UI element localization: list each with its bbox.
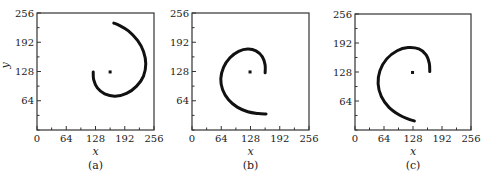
y-tick-label: 128 — [333, 67, 352, 78]
x-tick-label: 128 — [86, 133, 105, 144]
y-tick-label: 256 — [170, 8, 189, 19]
x-tick-label: 256 — [299, 133, 318, 144]
x-tick-label: 256 — [461, 133, 480, 144]
y-tick-label: 128 — [15, 66, 34, 77]
y-tick-label: 256 — [15, 8, 34, 19]
spiral-curve — [378, 47, 430, 120]
center-point — [109, 70, 112, 73]
x-tick-label: 0 — [34, 133, 40, 144]
x-tick-label: 192 — [270, 133, 289, 144]
y-axis-label: y — [0, 62, 12, 70]
x-axis-label: x — [247, 145, 254, 158]
panel-label: (c) — [406, 159, 421, 172]
x-tick-label: 64 — [215, 133, 228, 144]
center-point — [411, 71, 414, 74]
y-tick-label: 192 — [333, 38, 352, 49]
x-tick-label: 64 — [378, 133, 391, 144]
x-tick-label: 192 — [115, 133, 134, 144]
panel-b: x (b) 06412819225664128192256 — [170, 8, 319, 173]
x-tick-label: 0 — [189, 133, 195, 144]
y-tick-label: 128 — [170, 66, 189, 77]
x-tick-label: 0 — [352, 133, 358, 144]
x-tick-label: 128 — [403, 133, 422, 144]
x-tick-label: 64 — [60, 133, 73, 144]
y-tick-label: 64 — [176, 95, 189, 106]
panel-a: y x (a) 06412819225664128192256 — [0, 8, 164, 173]
spiral-curve — [93, 23, 146, 96]
y-tick-label: 64 — [339, 96, 352, 107]
y-tick-label: 192 — [170, 37, 189, 48]
x-tick-label: 256 — [144, 133, 163, 144]
panel-label: (a) — [88, 159, 103, 172]
plot-frame — [37, 13, 154, 130]
x-axis-label: x — [410, 145, 417, 158]
x-axis-label: x — [92, 145, 99, 158]
panel-c: x (c) 06412819225664128192256 — [333, 9, 481, 173]
center-point — [249, 70, 252, 73]
y-tick-label: 256 — [333, 9, 352, 20]
panel-label: (b) — [243, 159, 259, 172]
figure: y x (a) 06412819225664128192256 x (b) 06… — [0, 0, 484, 180]
x-tick-label: 192 — [432, 133, 451, 144]
spiral-curve — [221, 49, 266, 114]
y-tick-label: 64 — [21, 95, 34, 106]
y-tick-label: 192 — [15, 37, 34, 48]
x-tick-label: 128 — [241, 133, 260, 144]
